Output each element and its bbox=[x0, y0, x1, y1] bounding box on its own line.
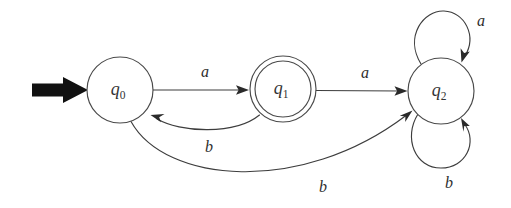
state-q2[interactable]: q2 bbox=[408, 58, 474, 124]
transition-q0-q1-a: a bbox=[153, 63, 249, 95]
state-q1-label-base: q bbox=[274, 78, 283, 98]
transition-q1-q0-b-arrowhead bbox=[151, 114, 165, 122]
transition-q0-q2-b-curve bbox=[131, 116, 406, 172]
transition-q2-q2-a-selfloop: a bbox=[415, 11, 485, 64]
transition-q1-q0-b: b bbox=[151, 114, 260, 155]
state-q1-label-sub: 1 bbox=[283, 88, 289, 100]
transition-label-q1-q2-a: a bbox=[361, 64, 369, 81]
state-q0[interactable]: q0 bbox=[87, 57, 153, 123]
state-q2-label-sub: 2 bbox=[441, 90, 447, 102]
transition-q2-q2-b-arrowhead bbox=[461, 118, 470, 132]
transition-q1-q2-a: a bbox=[316, 64, 408, 96]
transition-q1-q2-a-line bbox=[316, 91, 401, 92]
automaton-diagram: a a b b a b bbox=[0, 0, 511, 208]
transition-q1-q0-b-curve bbox=[157, 115, 260, 130]
start-arrow-shape bbox=[32, 77, 88, 103]
transition-q0-q2-b: b bbox=[131, 111, 413, 195]
transition-q2-q2-b-selfloop: b bbox=[411, 114, 470, 191]
state-q0-label-base: q bbox=[111, 79, 120, 99]
state-q0-label-sub: 0 bbox=[120, 89, 126, 101]
transition-q0-q2-b-arrowhead bbox=[400, 111, 413, 123]
transition-label-q1-q0-b: b bbox=[205, 138, 213, 155]
transition-label-q2-q2-b: b bbox=[445, 174, 453, 191]
automaton-canvas: a a b b a b bbox=[0, 0, 511, 208]
transition-label-q2-q2-a: a bbox=[477, 12, 485, 29]
state-q2-label-base: q bbox=[432, 80, 441, 100]
transition-label-q0-q2-b: b bbox=[319, 178, 327, 195]
state-q1[interactable]: q1 bbox=[250, 56, 316, 122]
transition-label-q0-q1-a: a bbox=[201, 63, 209, 80]
start-arrow bbox=[32, 77, 88, 103]
